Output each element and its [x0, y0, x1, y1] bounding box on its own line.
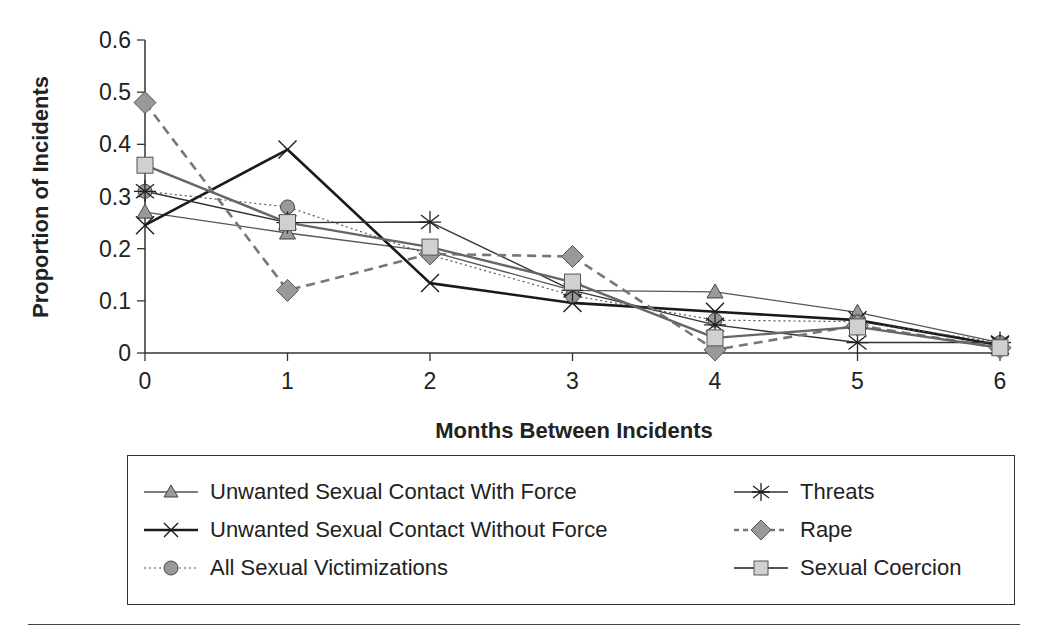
- x-tick-label: 3: [566, 368, 579, 394]
- x-tick-label: 5: [851, 368, 864, 394]
- circle-marker-icon: [142, 558, 200, 578]
- triangle-marker-icon: [142, 482, 200, 502]
- legend-label: Unwanted Sexual Contact Without Force: [210, 517, 607, 543]
- legend-label: Threats: [800, 479, 875, 505]
- square-marker-icon: [732, 558, 790, 578]
- divider-rule: [28, 624, 1020, 625]
- x-marker-icon: [142, 520, 200, 540]
- legend-item-with-force: Unwanted Sexual Contact With Force: [142, 475, 577, 509]
- y-tick-label: 0.1: [99, 288, 131, 314]
- y-tick-label: 0: [118, 340, 131, 366]
- legend-item-rape: Rape: [732, 513, 853, 547]
- x-marker-icon: [279, 141, 297, 159]
- triangle-marker-icon: [137, 204, 153, 218]
- legend-label: Sexual Coercion: [800, 555, 961, 581]
- series-lines: [145, 103, 1000, 350]
- square-marker-icon: [422, 239, 438, 255]
- square-marker-icon: [707, 330, 723, 346]
- diamond-marker-icon: [134, 92, 156, 114]
- diamond-marker-icon: [562, 245, 584, 267]
- diamond-marker-icon: [277, 279, 299, 301]
- square-marker-icon: [565, 274, 581, 290]
- diamond-marker-icon: [732, 520, 790, 540]
- asterisk-marker-icon: [419, 211, 441, 233]
- chart-legend: Unwanted Sexual Contact With Force Unwan…: [127, 455, 1015, 605]
- x-tick-label: 6: [994, 368, 1007, 394]
- square-marker-icon: [280, 215, 296, 231]
- legend-label: Unwanted Sexual Contact With Force: [210, 479, 577, 505]
- legend-item-coercion: Sexual Coercion: [732, 551, 961, 585]
- legend-item-without-force: Unwanted Sexual Contact Without Force: [142, 513, 607, 547]
- y-axis-title: Proportion of Incidents: [28, 76, 53, 318]
- asterisk-marker-icon: [134, 180, 156, 202]
- legend-item-threats: Threats: [732, 475, 875, 509]
- legend-label: All Sexual Victimizations: [210, 555, 448, 581]
- x-tick-label: 4: [709, 368, 722, 394]
- legend-label: Rape: [800, 517, 853, 543]
- y-tick-label: 0.4: [99, 131, 131, 157]
- series-line: [145, 103, 1000, 350]
- y-tick-label: 0.5: [99, 79, 131, 105]
- asterisk-marker-icon: [732, 482, 790, 502]
- series-markers: [134, 92, 1011, 361]
- square-marker-icon: [137, 157, 153, 173]
- x-tick-label: 0: [139, 368, 152, 394]
- x-tick-label: 1: [281, 368, 294, 394]
- triangle-marker-icon: [707, 284, 723, 298]
- y-tick-label: 0.6: [99, 27, 131, 53]
- square-marker-icon: [850, 319, 866, 335]
- y-tick-label: 0.3: [99, 184, 131, 210]
- square-marker-icon: [992, 340, 1008, 356]
- line-chart: 00.10.20.30.40.50.60123456 Months Betwee…: [0, 0, 1043, 450]
- x-axis-title: Months Between Incidents: [435, 418, 712, 443]
- x-tick-label: 2: [424, 368, 437, 394]
- legend-item-all-victimizations: All Sexual Victimizations: [142, 551, 448, 585]
- y-tick-label: 0.2: [99, 236, 131, 262]
